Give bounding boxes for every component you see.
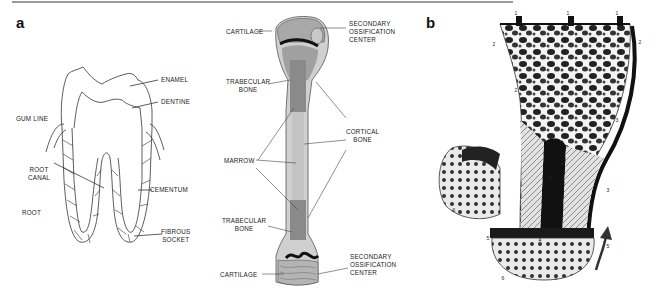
svg-text:3: 3 bbox=[616, 117, 619, 123]
marker-1b: 1 bbox=[567, 10, 570, 16]
svg-text:4: 4 bbox=[561, 161, 564, 167]
svg-text:2: 2 bbox=[493, 41, 496, 47]
svg-text:6: 6 bbox=[453, 207, 456, 213]
svg-text:4: 4 bbox=[539, 237, 542, 243]
svg-text:2: 2 bbox=[515, 87, 518, 93]
marker-1a: 1 bbox=[515, 10, 518, 16]
svg-text:6: 6 bbox=[502, 275, 505, 281]
svg-text:5: 5 bbox=[487, 235, 490, 241]
svg-text:3: 3 bbox=[607, 187, 610, 193]
bone-section-illustration: 1 1 1 2 2 2 3 3 4 4 4 5 5 6 6 6 7 bbox=[0, 0, 659, 300]
svg-text:4: 4 bbox=[549, 175, 552, 181]
svg-text:2: 2 bbox=[639, 39, 642, 45]
svg-text:6: 6 bbox=[555, 275, 558, 281]
marker-1c: 1 bbox=[616, 10, 619, 16]
svg-text:7: 7 bbox=[589, 217, 592, 223]
svg-text:5: 5 bbox=[607, 243, 610, 249]
